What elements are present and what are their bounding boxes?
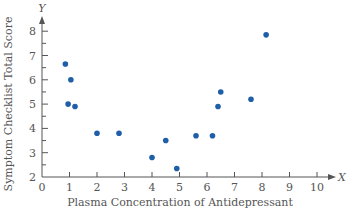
x-tick-label: 4 [149,181,156,194]
data-point [72,104,78,110]
x-tick-label: 1 [66,181,73,194]
axes [39,16,336,180]
x-tick-label: 2 [94,181,101,194]
y-tick-label: 4 [29,122,36,135]
x-tick-label: 0 [39,181,46,194]
data-point [218,89,224,95]
x-tick-label: 8 [259,181,266,194]
y-tick-label: 7 [29,50,36,63]
data-point [68,77,74,83]
y-tick-label: 2 [29,171,36,184]
y-tick-label: 8 [29,25,36,38]
y-tick-label: 5 [29,98,36,111]
x-tick-label: 9 [286,181,293,194]
x-tick-label: 5 [176,181,183,194]
data-point [63,61,69,67]
y-axis-letter: Y [38,2,47,15]
data-point [163,138,169,144]
data-point [263,32,269,38]
y-tick-label: 3 [29,147,36,160]
x-axis-title: Plasma Concentration of Antidepressant [67,196,293,209]
y-tick-label: 6 [29,74,36,87]
x-axis-letter: X [337,171,347,184]
data-point [193,133,199,139]
data-point [210,133,216,139]
x-tick-label: 10 [310,181,324,194]
data-point [65,101,71,107]
data-point [248,96,254,102]
scatter-chart: 0123456789102345678 Plasma Concentration… [0,0,353,216]
data-point [116,130,122,136]
y-axis-arrow-icon [39,16,45,24]
y-axis-title: Symptom Checklist Total Score [2,17,15,192]
x-tick-label: 3 [121,181,128,194]
x-tick-label: 7 [231,181,238,194]
data-point [149,155,155,161]
data-point [215,104,221,110]
x-tick-label: 6 [204,181,211,194]
data-point [94,130,100,136]
x-axis-arrow-icon [328,174,336,180]
data-point [174,166,180,172]
data-points [63,32,269,171]
